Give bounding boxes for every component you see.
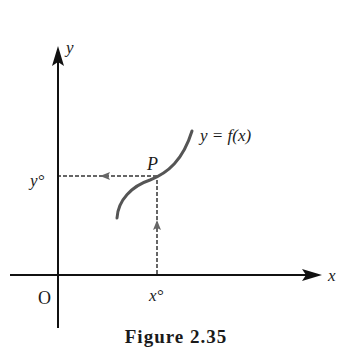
y-axis-label: y [64, 38, 74, 57]
curve-label: y = f(x) [198, 126, 251, 145]
y-axis: y [52, 38, 74, 328]
horizontal-projection-line [59, 172, 157, 180]
function-curve [117, 131, 192, 218]
origin-label: O [38, 288, 51, 308]
function-mapping-figure: y x O y = f(x) P y° x° Figur [0, 0, 352, 351]
x-zero-label: x° [148, 286, 164, 305]
y-zero-label: y° [28, 171, 45, 190]
point-p-label: P [146, 154, 158, 174]
vertical-projection-line [153, 178, 161, 274]
x-axis-label: x [327, 266, 336, 285]
figure-caption: Figure 2.35 [125, 326, 227, 347]
